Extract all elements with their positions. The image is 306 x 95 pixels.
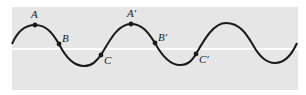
point-B-prime-dot bbox=[153, 41, 158, 46]
wave-diagram: A B C A′ B′ C′ bbox=[0, 0, 306, 95]
point-B-prime-label: B′ bbox=[158, 31, 168, 43]
point-C-prime-label: C′ bbox=[199, 53, 209, 65]
point-C-label: C bbox=[104, 54, 112, 66]
point-A-label: A bbox=[30, 8, 38, 20]
point-A-dot bbox=[33, 23, 38, 28]
point-C-prime-dot bbox=[194, 52, 199, 57]
point-A-prime-label: A′ bbox=[126, 7, 137, 19]
point-B-label: B bbox=[62, 32, 69, 44]
point-A-prime-dot bbox=[129, 22, 134, 27]
point-B-dot bbox=[57, 42, 62, 47]
point-C-dot bbox=[99, 53, 104, 58]
